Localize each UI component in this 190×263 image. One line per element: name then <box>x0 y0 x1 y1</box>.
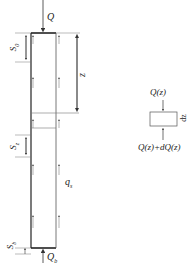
settlement-top-label: S0 <box>11 42 19 53</box>
pile-load-transfer-diagram <box>0 0 190 263</box>
pile-body <box>31 33 56 248</box>
settlement-tip-label: Sb <box>8 240 16 251</box>
friction-label: qs <box>65 177 72 189</box>
depth-label: z <box>80 70 84 80</box>
tip-load-label: Qb <box>47 252 57 263</box>
element-top-force-label: Q(z) <box>150 88 166 97</box>
depth-dimension <box>56 33 80 110</box>
element-bottom-force-label: Q(z)+dQ(z) <box>138 143 181 152</box>
settlement-mid-label: Sz <box>11 141 18 152</box>
settlement-tip-dimension <box>15 248 31 254</box>
element-thickness-label: dz <box>180 114 188 122</box>
section-element <box>31 113 79 128</box>
side-friction-arrows <box>33 36 59 228</box>
element-free-body <box>150 100 177 140</box>
top-load-label: Q <box>47 12 54 22</box>
